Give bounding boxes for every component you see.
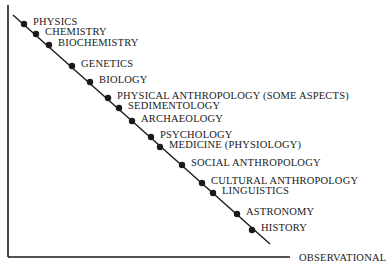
point-marker [210,190,216,196]
point-marker [46,42,52,48]
discipline-point: MEDICINE (PHYSIOLOGY) [157,139,302,151]
point-marker [179,162,185,168]
point-label: ASTRONOMY [246,206,315,217]
point-label: GENETICS [81,58,133,69]
point-marker [116,105,122,111]
point-marker [69,63,75,69]
point-marker [21,21,27,27]
point-label: SEDIMENTOLOGY [128,100,220,111]
discipline-point: BIOCHEMISTRY [46,37,139,48]
discipline-point: ARCHAEOLOGY [129,113,224,124]
discipline-point: GENETICS [69,58,134,69]
point-marker [199,180,205,186]
point-label: LINGUISTICS [222,185,289,196]
discipline-point: HISTORY [249,222,308,233]
point-label: BIOCHEMISTRY [58,37,139,48]
point-label: ARCHAEOLOGY [141,113,223,124]
discipline-point: ASTRONOMY [234,206,315,217]
point-label: BIOLOGY [99,74,148,85]
discipline-points: PHYSICSCHEMISTRYBIOCHEMISTRYGENETICSBIOL… [21,16,359,233]
point-label: MEDICINE (PHYSIOLOGY) [169,139,302,151]
point-marker [105,95,111,101]
x-axis-label: OBSERVATIONAL [299,252,386,263]
point-marker [129,118,135,124]
point-marker [148,134,154,140]
point-marker [249,227,255,233]
point-marker [234,211,240,217]
discipline-point: SEDIMENTOLOGY [116,100,221,111]
discipline-point: LINGUISTICS [210,185,289,196]
point-label: HISTORY [261,222,307,233]
point-marker [87,79,93,85]
point-label: SOCIAL ANTHROPOLOGY [191,157,321,168]
point-marker [157,144,163,150]
discipline-point: SOCIAL ANTHROPOLOGY [179,157,321,168]
point-marker [33,31,39,37]
discipline-spectrum-diagram: PHYSICSCHEMISTRYBIOCHEMISTRYGENETICSBIOL… [0,0,390,265]
discipline-point: CHEMISTRY [33,26,107,37]
discipline-point: BIOLOGY [87,74,148,85]
point-label: CHEMISTRY [45,26,107,37]
